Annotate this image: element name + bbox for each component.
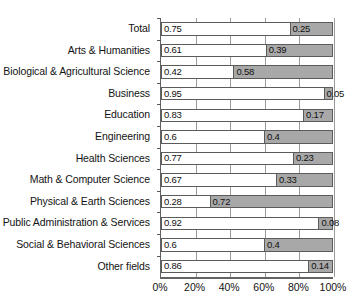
bar-row: 0.860.14 bbox=[161, 256, 333, 278]
stacked-bar: 0.280.72 bbox=[161, 195, 333, 208]
bar-value-label: 0.4 bbox=[267, 240, 280, 250]
bar-segment-1: 0.28 bbox=[162, 196, 210, 207]
bar-row: 0.950.05 bbox=[161, 83, 333, 105]
bar-value-label: 0.6 bbox=[164, 132, 177, 142]
stacked-bar: 0.750.25 bbox=[161, 22, 333, 35]
bar-row: 0.670.33 bbox=[161, 169, 333, 191]
bar-value-label: 0.05 bbox=[327, 89, 345, 99]
category-label: Total bbox=[0, 18, 155, 40]
bar-segment-2: 0.39 bbox=[266, 45, 332, 56]
category-label: Physical & Earth Sciences bbox=[0, 191, 155, 213]
stacked-bar: 0.60.4 bbox=[161, 130, 333, 143]
stacked-bar: 0.610.39 bbox=[161, 44, 333, 57]
stacked-bar: 0.950.05 bbox=[161, 87, 333, 100]
bar-value-label: 0.86 bbox=[164, 262, 182, 272]
bar-value-label: 0.67 bbox=[164, 175, 182, 185]
gridline bbox=[334, 18, 335, 277]
bar-value-label: 0.83 bbox=[164, 111, 182, 121]
category-label: Business bbox=[0, 83, 155, 105]
category-label: Social & Behavioral Sciences bbox=[0, 234, 155, 256]
bar-value-label: 0.08 bbox=[321, 219, 339, 229]
bar-segment-1: 0.61 bbox=[162, 45, 266, 56]
stacked-bar: 0.60.4 bbox=[161, 238, 333, 251]
bar-value-label: 0.75 bbox=[164, 24, 182, 34]
stacked-bar: 0.670.33 bbox=[161, 173, 333, 186]
bar-segment-2: 0.58 bbox=[233, 66, 332, 77]
bar-value-label: 0.28 bbox=[164, 197, 182, 207]
bar-segment-1: 0.77 bbox=[162, 153, 293, 164]
bar-value-label: 0.33 bbox=[279, 175, 297, 185]
x-axis-line bbox=[160, 277, 333, 278]
category-label: Engineering bbox=[0, 126, 155, 148]
bar-row: 0.60.4 bbox=[161, 234, 333, 256]
bar-rows: 0.750.250.610.390.420.580.950.050.830.17… bbox=[161, 18, 333, 277]
bar-segment-1: 0.6 bbox=[162, 239, 264, 250]
category-label: Biological & Agricultural Science bbox=[0, 61, 155, 83]
plot-area: 0.750.250.610.390.420.580.950.050.830.17… bbox=[160, 18, 333, 277]
bar-value-label: 0.6 bbox=[164, 240, 177, 250]
x-tick-label: 20% bbox=[184, 281, 205, 293]
bar-value-label: 0.77 bbox=[164, 154, 182, 164]
bar-value-label: 0.58 bbox=[236, 67, 254, 77]
bar-value-label: 0.92 bbox=[164, 219, 182, 229]
stacked-bar: 0.920.08 bbox=[161, 217, 333, 230]
bar-segment-1: 0.83 bbox=[162, 110, 303, 121]
bar-segment-2: 0.17 bbox=[303, 110, 332, 121]
category-axis-labels: TotalArts & HumanitiesBiological & Agric… bbox=[0, 18, 155, 277]
x-tick-label: 80% bbox=[288, 281, 309, 293]
category-label: Education bbox=[0, 104, 155, 126]
bar-segment-1: 0.86 bbox=[162, 261, 308, 272]
x-tick-label: 100% bbox=[320, 281, 347, 293]
bar-segment-1: 0.75 bbox=[162, 23, 290, 34]
bar-segment-2: 0.72 bbox=[210, 196, 332, 207]
x-tick-label: 0% bbox=[152, 281, 167, 293]
bar-value-label: 0.23 bbox=[296, 154, 314, 164]
bar-row: 0.920.08 bbox=[161, 212, 333, 234]
category-label: Public Administration & Services bbox=[0, 212, 155, 234]
bar-row: 0.750.25 bbox=[161, 18, 333, 40]
bar-value-label: 0.39 bbox=[269, 46, 287, 56]
bar-value-label: 0.95 bbox=[164, 89, 182, 99]
bar-segment-1: 0.6 bbox=[162, 131, 264, 142]
bar-segment-1: 0.95 bbox=[162, 88, 324, 99]
bar-segment-2: 0.23 bbox=[293, 153, 332, 164]
bar-segment-2: 0.25 bbox=[290, 23, 333, 34]
bar-value-label: 0.14 bbox=[311, 262, 329, 272]
bar-segment-1: 0.42 bbox=[162, 66, 233, 77]
bar-segment-1: 0.67 bbox=[162, 174, 276, 185]
bar-row: 0.60.4 bbox=[161, 126, 333, 148]
x-tick-label: 40% bbox=[219, 281, 240, 293]
bar-value-label: 0.42 bbox=[164, 67, 182, 77]
x-axis-labels: 0%20%40%60%80%100% bbox=[0, 281, 359, 301]
bar-row: 0.610.39 bbox=[161, 40, 333, 62]
x-tick-label: 60% bbox=[253, 281, 274, 293]
stacked-bar: 0.860.14 bbox=[161, 260, 333, 273]
stacked-bar: 0.420.58 bbox=[161, 65, 333, 78]
bar-segment-2: 0.4 bbox=[264, 131, 332, 142]
bar-segment-2: 0.05 bbox=[324, 88, 333, 99]
category-label: Health Sciences bbox=[0, 148, 155, 170]
bar-row: 0.770.23 bbox=[161, 148, 333, 170]
bar-value-label: 0.4 bbox=[267, 132, 280, 142]
stacked-bar: 0.770.23 bbox=[161, 152, 333, 165]
category-label: Math & Computer Science bbox=[0, 169, 155, 191]
category-label: Other fields bbox=[0, 256, 155, 278]
category-label: Arts & Humanities bbox=[0, 40, 155, 62]
bar-value-label: 0.17 bbox=[306, 111, 324, 121]
bar-segment-2: 0.4 bbox=[264, 239, 332, 250]
stacked-bar: 0.830.17 bbox=[161, 109, 333, 122]
bar-segment-1: 0.92 bbox=[162, 218, 318, 229]
bar-segment-2: 0.08 bbox=[318, 218, 332, 229]
bar-segment-2: 0.33 bbox=[276, 174, 332, 185]
stacked-bar-chart: TotalArts & HumanitiesBiological & Agric… bbox=[0, 0, 359, 308]
bar-row: 0.830.17 bbox=[161, 104, 333, 126]
bar-segment-2: 0.14 bbox=[308, 261, 332, 272]
bar-value-label: 0.61 bbox=[164, 46, 182, 56]
bar-value-label: 0.72 bbox=[213, 197, 231, 207]
bar-row: 0.420.58 bbox=[161, 61, 333, 83]
bar-value-label: 0.25 bbox=[293, 24, 311, 34]
bar-row: 0.280.72 bbox=[161, 191, 333, 213]
